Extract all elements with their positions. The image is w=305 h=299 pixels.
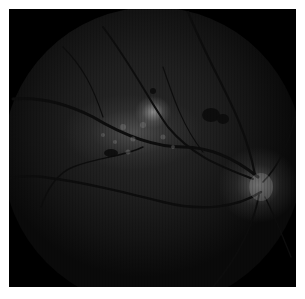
image-frame (9, 9, 296, 287)
fundus-photograph (9, 9, 296, 287)
retinal-vessels (9, 9, 296, 287)
